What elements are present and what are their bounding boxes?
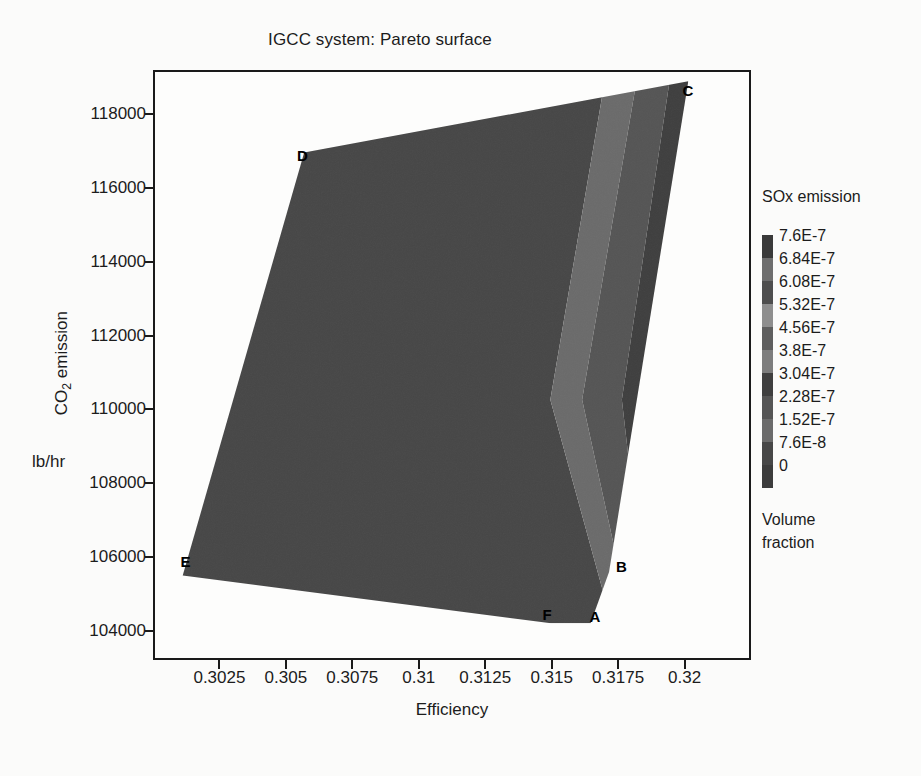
x-axis-tick-label: 0.32 bbox=[630, 668, 740, 688]
y-axis-tick-label: 116000 bbox=[26, 178, 146, 198]
page-title: IGCC system: Pareto surface bbox=[0, 30, 760, 50]
legend-swatch bbox=[762, 396, 773, 419]
y-axis-tick-label: 114000 bbox=[26, 252, 146, 272]
legend-entry-label: 0 bbox=[779, 454, 835, 477]
y-axis-units: lb/hr bbox=[32, 452, 65, 472]
y-axis-tick-label: 104000 bbox=[26, 621, 146, 641]
y-axis-tick-label: 118000 bbox=[26, 104, 146, 124]
legend: SOx emission 7.6E-76.84E-76.08E-75.32E-7… bbox=[762, 188, 912, 554]
y-axis-tick-label: 110000 bbox=[26, 399, 146, 419]
legend-swatch bbox=[762, 304, 773, 327]
legend-entry-label: 7.6E-7 bbox=[779, 224, 835, 247]
legend-title: SOx emission bbox=[762, 188, 912, 206]
legend-entry-label: 4.56E-7 bbox=[779, 316, 835, 339]
legend-entry-label: 3.8E-7 bbox=[779, 339, 835, 362]
surface-point-label-e: E bbox=[181, 552, 191, 569]
contour-band bbox=[691, 72, 749, 658]
legend-entry-label: 5.32E-7 bbox=[779, 293, 835, 316]
x-axis-tick-mark bbox=[684, 660, 686, 669]
contour-band bbox=[676, 72, 749, 658]
y-axis-tick-label: 106000 bbox=[26, 547, 146, 567]
surface-point-label-a: A bbox=[589, 607, 600, 624]
legend-swatch bbox=[762, 327, 773, 350]
paper-grain bbox=[155, 72, 749, 658]
surface-point-label-c: C bbox=[682, 82, 693, 99]
legend-footer: Volume fraction bbox=[762, 508, 912, 554]
x-axis-tick-mark bbox=[617, 660, 619, 669]
x-axis-tick-mark bbox=[484, 660, 486, 669]
legend-entry-label: 2.28E-7 bbox=[779, 385, 835, 408]
surface-point-label-d: D bbox=[297, 146, 308, 163]
legend-entry-label: 3.04E-7 bbox=[779, 362, 835, 385]
legend-swatch bbox=[762, 419, 773, 442]
legend-swatch bbox=[762, 281, 773, 304]
y-axis-tick-label: 112000 bbox=[26, 326, 146, 346]
surface-point-label-f: F bbox=[542, 606, 551, 623]
legend-entry-label: 6.84E-7 bbox=[779, 247, 835, 270]
contour-band bbox=[731, 72, 749, 658]
plot-area: ABCDEF bbox=[153, 70, 751, 660]
legend-swatch bbox=[762, 373, 773, 396]
legend-colorbar: 7.6E-76.84E-76.08E-75.32E-74.56E-73.8E-7… bbox=[762, 224, 912, 488]
x-axis-tick-mark bbox=[285, 660, 287, 669]
legend-swatch bbox=[762, 258, 773, 281]
legend-entry-label: 7.6E-8 bbox=[779, 431, 835, 454]
contour-band bbox=[703, 72, 749, 658]
legend-swatch bbox=[762, 235, 773, 258]
x-axis-title: Efficiency bbox=[153, 700, 751, 720]
legend-swatch bbox=[762, 465, 773, 488]
legend-label-column: 7.6E-76.84E-76.08E-75.32E-74.56E-73.8E-7… bbox=[779, 224, 835, 488]
legend-swatch bbox=[762, 350, 773, 373]
x-axis-tick-mark bbox=[418, 660, 420, 669]
y-axis-title-text: CO2 emission bbox=[52, 311, 71, 415]
pareto-surface-plot bbox=[155, 72, 749, 658]
y-axis-title: CO2 emission bbox=[52, 288, 74, 438]
legend-footer-line-2: fraction bbox=[762, 531, 912, 554]
x-axis-tick-mark bbox=[351, 660, 353, 669]
legend-entry-label: 6.08E-7 bbox=[779, 270, 835, 293]
legend-entry-label: 1.52E-7 bbox=[779, 408, 835, 431]
legend-footer-line-1: Volume bbox=[762, 508, 912, 531]
legend-swatch bbox=[762, 442, 773, 465]
contour-band bbox=[717, 72, 749, 658]
y-axis-tick-label: 108000 bbox=[26, 473, 146, 493]
surface-point-label-b: B bbox=[616, 558, 627, 575]
x-axis-tick-mark bbox=[218, 660, 220, 669]
figure-page: IGCC system: Pareto surface 118000116000… bbox=[0, 0, 921, 776]
x-axis-tick-mark bbox=[551, 660, 553, 669]
legend-swatch-column bbox=[762, 235, 773, 488]
